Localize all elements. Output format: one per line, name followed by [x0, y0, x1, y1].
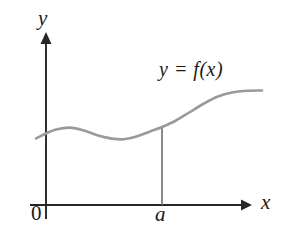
function-curve: [36, 91, 262, 140]
x-axis-arrow-icon: [241, 200, 252, 211]
x-axis-label: x: [261, 192, 270, 213]
y-axis-label: y: [38, 8, 47, 29]
function-equation-label: y = f(x): [159, 59, 223, 79]
x-tick-label-a: a: [155, 204, 166, 225]
graph-figure: y x 0 a y = f(x): [0, 0, 283, 241]
y-axis-arrow-icon: [41, 32, 52, 44]
graph-canvas: [0, 0, 283, 241]
origin-label: 0: [31, 203, 42, 224]
